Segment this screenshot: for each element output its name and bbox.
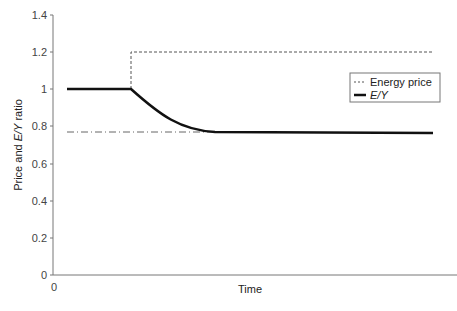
y-tick-1.4: 1.4 [32, 9, 47, 21]
y-tick-0.6: 0.6 [32, 158, 47, 170]
y-tick-0.8: 0.8 [32, 120, 47, 132]
legend-ey: E/Y [370, 89, 388, 101]
chart: 0 0.2 0.4 0.6 0.8 1 1.2 1.4 0 Time Price… [0, 0, 457, 311]
y-axis-label: Price and E/Y ratio [12, 99, 24, 191]
y-tick-0.2: 0.2 [32, 232, 47, 244]
x-tick-0: 0 [51, 281, 57, 293]
y-tick-1: 1 [41, 83, 47, 95]
y-tick-0.4: 0.4 [32, 195, 47, 207]
legend-energy-price: Energy price [370, 76, 432, 88]
x-axis-label: Time [238, 283, 262, 295]
y-tick-1.2: 1.2 [32, 46, 47, 58]
legend: Energy price E/Y [350, 73, 440, 102]
y-tick-labels: 0 0.2 0.4 0.6 0.8 1 1.2 1.4 [32, 9, 47, 281]
y-tick-0: 0 [41, 269, 47, 281]
